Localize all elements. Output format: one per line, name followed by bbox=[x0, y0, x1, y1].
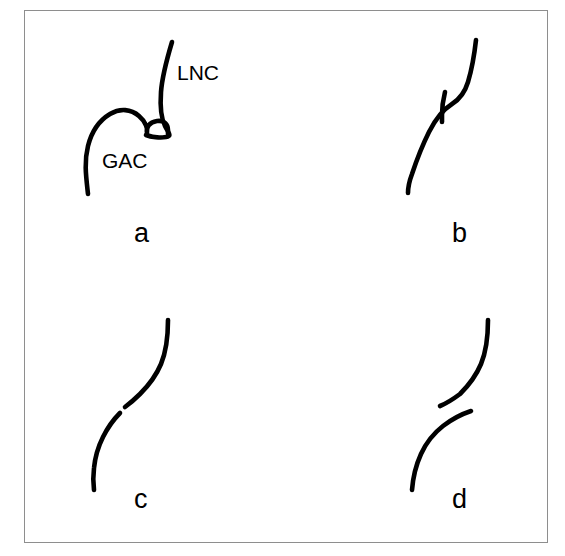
panel-letter-a: a bbox=[134, 220, 149, 247]
panel-letter-b: b bbox=[452, 220, 467, 247]
panel-letter-c: c bbox=[134, 486, 148, 513]
panel-letter-d: d bbox=[452, 486, 467, 513]
panel-b-curves bbox=[408, 40, 476, 193]
figure-drawing-canvas bbox=[0, 0, 565, 556]
panel-c-curves bbox=[93, 320, 168, 490]
label-lnc: LNC bbox=[177, 62, 219, 83]
label-gac: GAC bbox=[102, 150, 148, 171]
lower-curve-panel-d bbox=[412, 411, 471, 490]
upper-curve-panel-c bbox=[125, 320, 168, 407]
lower-curve-panel-c bbox=[93, 413, 120, 490]
figure-root: LNC GAC a b c d bbox=[0, 0, 565, 556]
upper-curve-panel-d bbox=[440, 320, 488, 406]
panel-d-curves bbox=[412, 320, 488, 490]
fragment-curve-panel-b bbox=[442, 92, 445, 122]
